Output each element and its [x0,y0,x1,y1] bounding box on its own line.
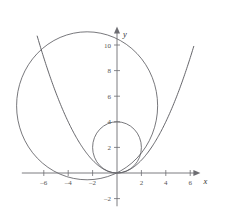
x-tick-label: 4 [164,179,168,187]
y-tick-label: 10 [104,42,112,50]
y-tick-label: 2 [108,144,112,152]
y-tick-label: 6 [108,93,112,101]
x-tick-label: –2 [88,179,97,187]
x-tick-label: –4 [64,179,73,187]
figure-container: –6–4–2246246810–2 x y [0,0,232,212]
y-tick-label: 4 [108,118,112,126]
y-axis-label: y [122,29,127,39]
x-axis-label: x [202,176,207,186]
y-tick-label: –2 [103,195,112,203]
x-tick-label: 6 [188,179,192,187]
x-tick-label: 2 [140,179,144,187]
y-tick-label: 8 [108,67,112,75]
math-plot: –6–4–2246246810–2 x y [0,0,232,212]
x-tick-label: –6 [39,179,48,187]
